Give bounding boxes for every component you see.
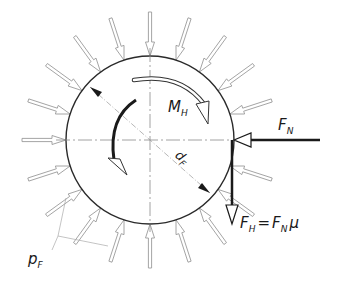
pressure-arrow-icon xyxy=(109,220,124,262)
pressure-arrow-icon xyxy=(199,36,226,73)
pressure-arrow-icon xyxy=(218,64,255,91)
pressure-arrow-icon xyxy=(176,220,191,262)
pressure-arrow-icon xyxy=(230,99,272,114)
pressure-arrow-icon xyxy=(230,166,272,181)
normal-force-label: FN xyxy=(278,116,294,136)
pressure-arrow-icon xyxy=(74,36,101,73)
pressure-arrow-icon xyxy=(74,208,101,245)
pressure-arrow-icon xyxy=(176,18,191,60)
diagram-canvas: MH dF FN FH=FNμ pF xyxy=(0,0,342,289)
pressure-arrow-icon xyxy=(28,99,70,114)
friction-force-equation: FH=FNμ xyxy=(240,214,299,234)
pressure-label: pF xyxy=(27,250,44,270)
pressure-arrow-icon xyxy=(109,18,124,60)
pressure-arrow-icon xyxy=(46,64,83,91)
normal-force-arrow-icon xyxy=(234,133,320,147)
pressure-arrow-icon xyxy=(28,166,70,181)
pressure-arrow-icon xyxy=(199,208,226,245)
pressure-arrow-icon xyxy=(46,189,83,216)
